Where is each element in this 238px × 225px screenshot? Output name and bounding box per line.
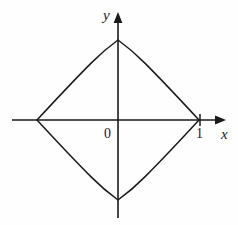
y-axis-arrowhead [114, 12, 123, 23]
x-tick-one-label: 1 [196, 127, 203, 141]
plot-canvas [0, 0, 238, 225]
x-axis-arrowhead [215, 116, 226, 125]
astroid-figure: y x 0 1 [0, 0, 238, 225]
origin-label: 0 [104, 127, 111, 141]
x-axis-label: x [221, 127, 228, 142]
y-axis-label: y [103, 8, 110, 23]
